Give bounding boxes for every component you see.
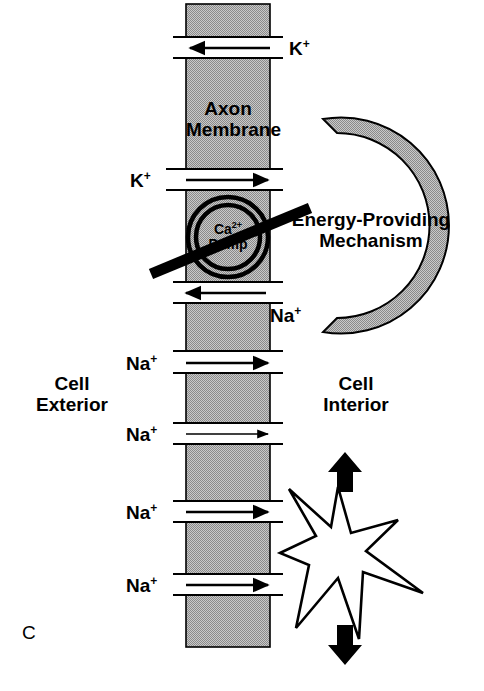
ion-symbol: Na <box>270 305 294 326</box>
axon-membrane-label-line1: Axon <box>186 98 270 119</box>
energy-providing-mechanism-label: Energy-Providing Mechanism <box>283 209 459 252</box>
axon-membrane-label: Axon Membrane <box>186 98 270 141</box>
energy-mechanism-line2: Mechanism <box>283 230 459 251</box>
ion-charge: + <box>150 574 157 588</box>
ion-charge: + <box>150 423 157 437</box>
calcium-pump-label-line2: Pump <box>188 237 268 252</box>
ion-symbol: Na <box>126 424 150 445</box>
channel-label-na-influx-2: Na+ <box>126 424 157 445</box>
ion-symbol: Na <box>126 575 150 596</box>
channel-label-na-influx-1: Na+ <box>126 353 157 374</box>
calcium-pump-label-line1: Ca2+ <box>188 222 268 237</box>
channel-label-na-influx-4: Na+ <box>126 575 157 596</box>
channel-label-na-efflux: Na+ <box>270 305 301 326</box>
cell-interior-label: Cell Interior <box>298 373 414 416</box>
channel-label-k-influx: K+ <box>130 170 151 191</box>
cell-interior-line1: Cell <box>298 373 414 394</box>
cell-interior-line2: Interior <box>298 394 414 415</box>
ion-charge: + <box>150 501 157 515</box>
ion-charge: + <box>150 352 157 366</box>
pump-ion-symbol: Ca <box>214 221 232 237</box>
channel-label-na-influx-3: Na+ <box>126 502 157 523</box>
axon-membrane-label-line2: Membrane <box>186 119 270 140</box>
ion-symbol: Na <box>126 502 150 523</box>
ion-charge: + <box>144 169 151 183</box>
arrow-up-icon <box>328 452 362 492</box>
cell-exterior-line2: Exterior <box>14 394 130 415</box>
excitation-starburst <box>280 487 423 639</box>
figure-panel-c: Axon Membrane K+ K+ Na+ Na+ Na+ Na+ Na+ … <box>0 0 484 691</box>
ion-charge: + <box>294 304 301 318</box>
ion-symbol: Na <box>126 353 150 374</box>
calcium-pump-label: Ca2+ Pump <box>188 222 268 251</box>
ion-charge: + <box>303 37 310 51</box>
energy-mechanism-line1: Energy-Providing <box>283 209 459 230</box>
ion-symbol: K <box>130 170 144 191</box>
channel-label-k-efflux: K+ <box>289 38 310 59</box>
ion-symbol: K <box>289 38 303 59</box>
panel-letter: C <box>22 622 36 643</box>
cell-exterior-label: Cell Exterior <box>14 373 130 416</box>
pump-ion-charge: 2+ <box>232 220 242 230</box>
cell-exterior-line1: Cell <box>14 373 130 394</box>
